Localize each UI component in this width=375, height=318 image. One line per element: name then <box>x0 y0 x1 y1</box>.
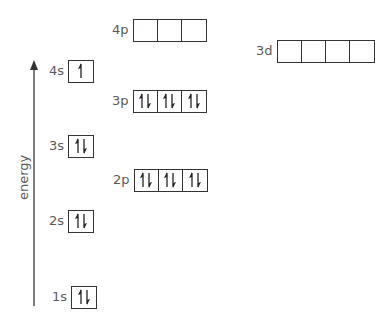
spin-pair-arrows-icon <box>161 91 177 111</box>
orbital-label: 3s <box>49 134 64 158</box>
orbital-label: 3p <box>112 89 129 113</box>
spin-pair-arrows-icon <box>73 211 89 231</box>
orbital-2s: 2s <box>49 209 94 233</box>
paired-electron-box <box>134 91 158 112</box>
paired-electron-box <box>183 170 207 191</box>
paired-electron-box <box>72 287 96 308</box>
empty-orbital-box <box>158 20 182 41</box>
empty-orbital-box <box>278 41 302 62</box>
orbital-3s: 3s <box>49 134 94 158</box>
orbital-3d: 3d <box>256 39 375 63</box>
orbital-boxes <box>277 40 375 63</box>
spin-pair-arrows-icon <box>187 170 203 190</box>
empty-orbital-box <box>134 20 158 41</box>
empty-orbital-box <box>326 41 350 62</box>
energy-axis-label: energy <box>16 156 32 200</box>
spin-pair-arrows-icon <box>137 91 153 111</box>
orbital-boxes <box>68 60 94 83</box>
orbital-label: 3d <box>256 39 273 63</box>
paired-electron-box <box>159 170 183 191</box>
orbital-boxes <box>134 169 208 192</box>
paired-electron-box <box>182 91 206 112</box>
spin-pair-arrows-icon <box>186 91 202 111</box>
paired-electron-box <box>69 136 93 157</box>
orbital-3p: 3p <box>112 89 207 113</box>
orbital-boxes <box>68 210 94 233</box>
orbital-2p: 2p <box>113 168 208 192</box>
orbital-1s: 1s <box>52 285 97 309</box>
spin-pair-arrows-icon <box>73 136 89 156</box>
orbital-boxes <box>133 19 207 42</box>
orbital-label: 4s <box>49 59 64 83</box>
empty-orbital-box <box>182 20 206 41</box>
spin-pair-arrows-icon <box>76 287 92 307</box>
orbital-label: 2p <box>113 168 130 192</box>
orbital-boxes <box>71 286 97 309</box>
orbital-label: 4p <box>112 18 129 42</box>
single-electron-box <box>69 61 93 82</box>
paired-electron-box <box>135 170 159 191</box>
orbital-boxes <box>68 135 94 158</box>
orbital-label: 1s <box>52 285 67 309</box>
orbital-boxes <box>133 90 207 113</box>
empty-orbital-box <box>302 41 326 62</box>
spin-pair-arrows-icon <box>162 170 178 190</box>
paired-electron-box <box>69 211 93 232</box>
spin-pair-arrows-icon <box>138 170 154 190</box>
orbital-label: 2s <box>49 209 64 233</box>
orbital-4p: 4p <box>112 18 207 42</box>
orbital-4s: 4s <box>49 59 94 83</box>
spin-up-arrow-icon <box>73 61 89 81</box>
empty-orbital-box <box>350 41 374 62</box>
paired-electron-box <box>158 91 182 112</box>
